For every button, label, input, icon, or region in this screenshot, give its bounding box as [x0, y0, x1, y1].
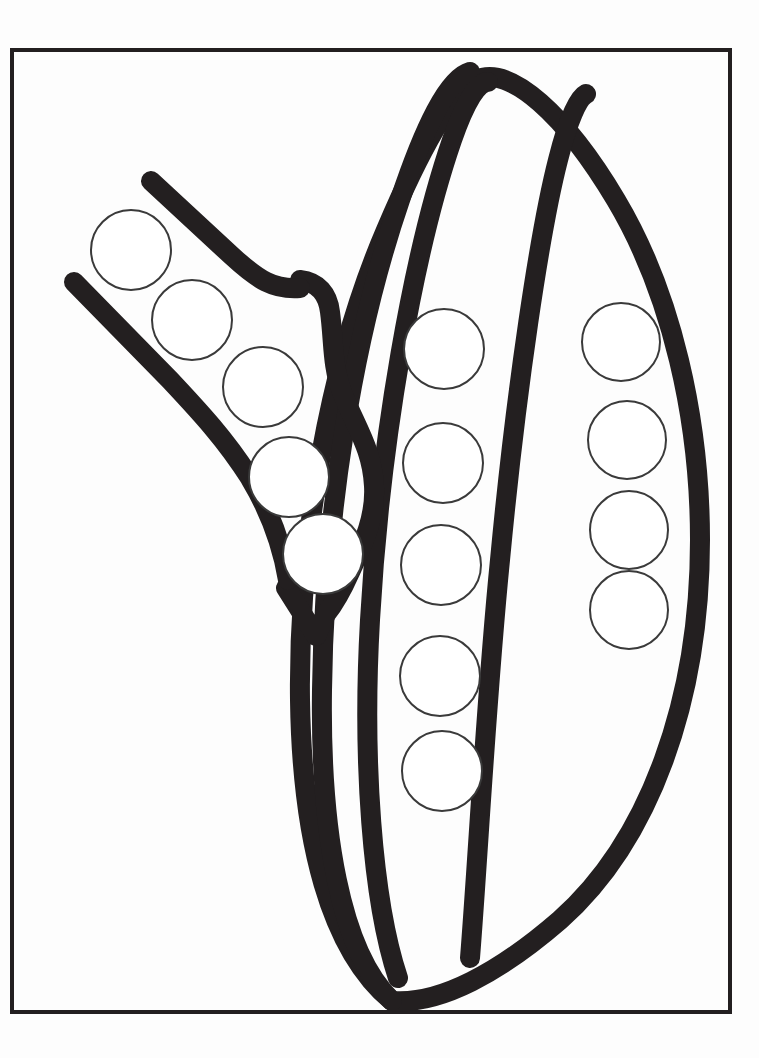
dot-circle[interactable] — [402, 731, 482, 811]
dot-circle[interactable] — [400, 636, 480, 716]
worksheet-page — [0, 0, 759, 1058]
pea-pod-artwork — [0, 0, 759, 1058]
dot-circle[interactable] — [249, 437, 329, 517]
dot-circle[interactable] — [582, 303, 660, 381]
dot-circle[interactable] — [152, 280, 232, 360]
dot-circle[interactable] — [401, 525, 481, 605]
dot-circle[interactable] — [91, 210, 171, 290]
dot-circle[interactable] — [223, 347, 303, 427]
dot-circle[interactable] — [590, 571, 668, 649]
dot-circle[interactable] — [404, 309, 484, 389]
dot-circle[interactable] — [588, 401, 666, 479]
dot-circle[interactable] — [590, 491, 668, 569]
dot-circle[interactable] — [283, 514, 363, 594]
dot-circle[interactable] — [403, 423, 483, 503]
